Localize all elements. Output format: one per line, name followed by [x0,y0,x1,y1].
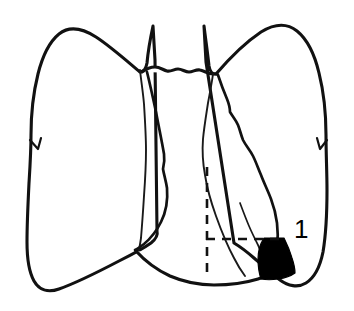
lung-segment-figure: 1 [0,0,354,311]
lung-diagram-svg [0,0,354,311]
